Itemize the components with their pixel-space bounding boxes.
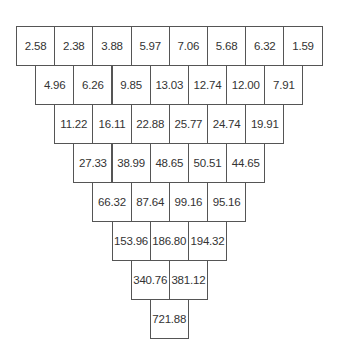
- pyramid-cell: 7.91: [264, 65, 303, 105]
- pyramid-cell: 4.96: [35, 65, 74, 105]
- pyramid-cell: 6.26: [73, 65, 112, 105]
- pyramid-cell: 12.00: [226, 65, 265, 105]
- pyramid-cell: 19.91: [245, 104, 284, 144]
- pyramid-cell: 5.68: [207, 26, 246, 66]
- pyramid-cell: 194.32: [188, 221, 227, 261]
- pyramid-cell: 7.06: [169, 26, 208, 66]
- pyramid-cell: 27.33: [73, 143, 112, 183]
- pyramid-cell: 99.16: [169, 182, 208, 222]
- pyramid-cell: 50.51: [188, 143, 227, 183]
- pyramid-cell: 12.74: [188, 65, 227, 105]
- number-pyramid: 2.582.383.885.977.065.686.321.594.966.26…: [0, 0, 337, 361]
- pyramid-cell: 13.03: [150, 65, 189, 105]
- pyramid-cell: 340.76: [131, 260, 170, 300]
- pyramid-cell: 66.32: [92, 182, 131, 222]
- pyramid-cell: 24.74: [207, 104, 246, 144]
- pyramid-cell: 1.59: [283, 26, 322, 66]
- pyramid-cell: 2.38: [54, 26, 93, 66]
- pyramid-cell: 381.12: [169, 260, 208, 300]
- pyramid-cell: 5.97: [131, 26, 170, 66]
- pyramid-cell: 186.80: [150, 221, 189, 261]
- pyramid-cell: 87.64: [131, 182, 170, 222]
- pyramid-cell: 11.22: [54, 104, 93, 144]
- pyramid-cell: 95.16: [207, 182, 246, 222]
- pyramid-cell: 38.99: [112, 143, 151, 183]
- pyramid-cell: 153.96: [112, 221, 151, 261]
- pyramid-cell: 9.85: [112, 65, 151, 105]
- pyramid-cell: 6.32: [245, 26, 284, 66]
- pyramid-cell: 3.88: [92, 26, 131, 66]
- pyramid-cell: 22.88: [131, 104, 170, 144]
- pyramid-cell: 48.65: [150, 143, 189, 183]
- pyramid-cell: 2.58: [16, 26, 55, 66]
- pyramid-cell: 721.88: [150, 299, 189, 339]
- pyramid-cell: 44.65: [226, 143, 265, 183]
- pyramid-cell: 25.77: [169, 104, 208, 144]
- pyramid-cell: 16.11: [92, 104, 131, 144]
